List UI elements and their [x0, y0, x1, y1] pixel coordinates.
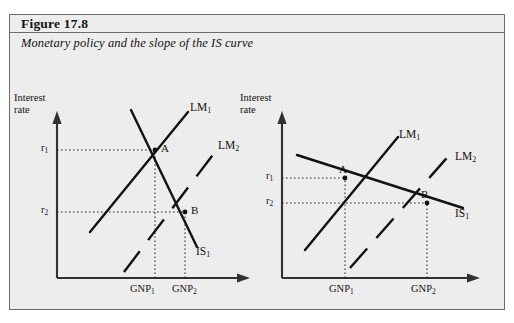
right-chart-axes [277, 111, 480, 283]
right-y-tick-r1: r1 [266, 170, 273, 183]
right-y-tick-r2: r2 [266, 195, 273, 208]
right-chart-graphics [0, 0, 514, 323]
right-is1-label: IS1 [455, 207, 469, 221]
right-is1-curve [297, 155, 463, 208]
right-x-tick-gnp1: GNP1 [329, 283, 354, 296]
right-lm1-curve [305, 137, 398, 250]
right-point-b [425, 201, 430, 206]
right-lm2-label: LM2 [455, 150, 476, 164]
right-equilibrium-b-label: B [421, 188, 428, 200]
right-point-a [343, 176, 348, 181]
right-y-axis-title: Interest rate [240, 92, 272, 115]
right-x-tick-gnp2: GNP2 [411, 283, 436, 296]
right-lm2-curve [350, 152, 452, 268]
right-equilibrium-a-label: A [339, 163, 347, 175]
right-lm1-label: LM1 [399, 128, 420, 142]
